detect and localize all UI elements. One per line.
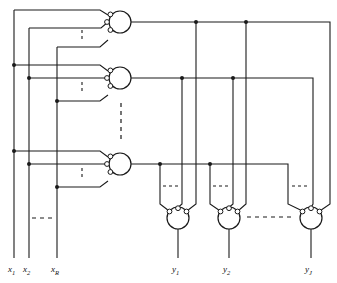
inversion-bubble-icon: [108, 12, 113, 17]
output-label-y2: y2: [223, 264, 230, 276]
inversion-bubble-icon: [176, 206, 181, 211]
and-gate-1[interactable]: [105, 11, 131, 33]
or-gate-yj[interactable]: [300, 206, 322, 229]
output-label-y1: y1: [172, 264, 179, 276]
inversion-bubble-icon: [167, 209, 172, 214]
logic-array-figure: x1 x2 xR y1 y2 yJ: [0, 0, 337, 283]
inversion-bubble-icon: [105, 76, 110, 81]
inversion-bubble-icon: [300, 209, 305, 214]
inversion-bubble-icon: [108, 28, 113, 33]
diagram-canvas: [0, 0, 337, 283]
or-gate-y2[interactable]: [218, 206, 240, 229]
and-gate-2-input-wires: [14, 65, 108, 101]
and-gate-2[interactable]: [105, 67, 131, 89]
inversion-bubble-icon: [309, 206, 314, 211]
inversion-bubble-icon: [108, 154, 113, 159]
inversion-bubble-icon: [108, 84, 113, 89]
or-gate-y1[interactable]: [167, 206, 189, 229]
inversion-bubble-icon: [105, 162, 110, 167]
inversion-bubble-icon: [235, 209, 240, 214]
output-label-yj: yJ: [305, 264, 312, 276]
input-label-xR: xR: [51, 264, 59, 276]
input-label-x1: x1: [8, 264, 15, 276]
and-gate-3[interactable]: [105, 153, 131, 175]
inversion-bubble-icon: [105, 20, 110, 25]
inversion-bubble-icon: [108, 170, 113, 175]
inversion-bubble-icon: [317, 209, 322, 214]
inversion-bubble-icon: [218, 209, 223, 214]
inversion-bubble-icon: [227, 206, 232, 211]
inversion-bubble-icon: [184, 209, 189, 214]
product-line-2: [131, 78, 313, 200]
inversion-bubble-icon: [108, 68, 113, 73]
and-gate-3-input-wires: [14, 151, 108, 187]
product-line-1: [131, 22, 330, 200]
input-label-x2: x2: [23, 264, 30, 276]
and-gate-1-input-wires: [14, 10, 108, 47]
